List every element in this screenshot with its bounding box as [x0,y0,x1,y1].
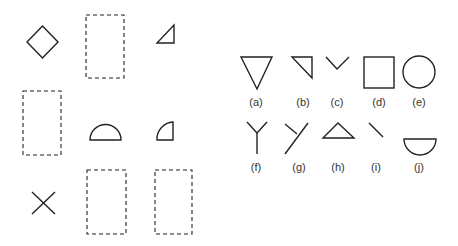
empty-slot [155,170,192,234]
empty-slot [23,91,61,155]
quarter-circle-shape [157,122,173,140]
option-g-label: (g) [292,161,305,173]
small-triangle-shape [157,25,174,43]
option-i-shape [369,123,383,137]
empty-slot [87,170,126,234]
option-c-shape [326,57,349,69]
option-b-label: (b) [296,96,309,108]
option-i-label: (i) [371,161,381,173]
option-h-shape [323,123,354,138]
option-a-shape [241,57,272,89]
x-cross-shape [32,192,55,214]
puzzle-figure [0,0,458,246]
option-e-shape [403,56,435,88]
option-j-label: (j) [414,161,424,173]
option-j-shape [404,139,436,155]
option-b-shape [292,57,312,78]
empty-slot [86,15,124,78]
option-f-label: (f) [251,161,261,173]
option-d-shape [364,57,394,88]
option-e-label: (e) [412,96,425,108]
diamond-shape [27,26,58,58]
option-d-label: (d) [372,96,385,108]
option-a-label: (a) [249,96,262,108]
option-g-shape [285,123,308,154]
option-h-label: (h) [331,161,344,173]
half-circle-shape [90,125,121,141]
option-f-shape [247,122,267,154]
option-c-label: (c) [331,96,344,108]
